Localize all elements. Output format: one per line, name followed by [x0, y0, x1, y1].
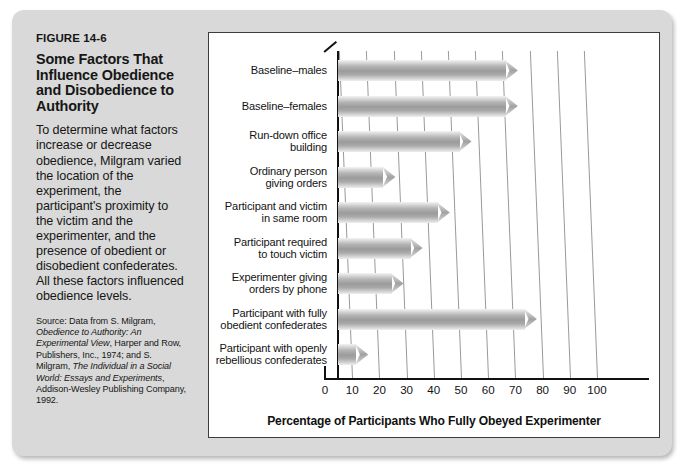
bar-body [338, 202, 438, 223]
figure-number: FIGURE 14-6 [36, 32, 188, 44]
bar-row [338, 309, 534, 330]
figure-source: Source: Data from S. Milgram, Obedience … [36, 316, 188, 407]
category-label: Baseline–males [209, 64, 333, 76]
figure-title: Some Factors That Influence Obedience an… [36, 52, 188, 114]
bar-body [338, 131, 460, 152]
gridline-90 [557, 51, 571, 378]
bar-row [338, 202, 447, 223]
bar-end-cap [459, 131, 472, 152]
figure-card: FIGURE 14-6 Some Factors That Influence … [12, 10, 672, 456]
bar-body [338, 344, 356, 365]
bar-row [338, 167, 392, 188]
bar-body [338, 60, 506, 81]
bar-row [338, 238, 420, 259]
bar-body [338, 238, 411, 259]
bar-row [338, 60, 515, 81]
category-label: Participant and victim in same room [209, 200, 333, 225]
x-axis-title: Percentage of Participants Who Fully Obe… [209, 414, 659, 428]
bar-end-cap [355, 344, 368, 365]
figure-caption-column: FIGURE 14-6 Some Factors That Influence … [36, 32, 188, 438]
bar-end-cap [410, 238, 423, 259]
bar-body [338, 309, 525, 330]
category-label: Run-down office building [209, 129, 333, 154]
bar-end-cap [505, 96, 518, 117]
bar-body [338, 167, 383, 188]
source-prefix: Source: Data from S. Milgram, [36, 316, 155, 326]
bar-row [338, 273, 401, 294]
bar-row [338, 344, 365, 365]
axis-depth-diagonal [323, 41, 336, 53]
bar-end-cap [524, 309, 537, 330]
bar-row [338, 131, 469, 152]
category-label: Experimenter giving orders by phone [209, 271, 333, 296]
category-label: Baseline–females [209, 100, 333, 112]
gridline-100 [584, 51, 598, 378]
bar-body [338, 96, 506, 117]
bar-row [338, 96, 515, 117]
bar-chart-plot: Percentage of Participants Who Fully Obe… [209, 33, 659, 437]
bar-end-cap [382, 167, 395, 188]
bar-body [338, 273, 392, 294]
bar-end-cap [391, 273, 404, 294]
chart-panel: Percentage of Participants Who Fully Obe… [208, 32, 660, 438]
category-label: Participant required to touch victim [209, 236, 333, 261]
x-axis-line [324, 378, 649, 380]
category-label: Ordinary person giving orders [209, 165, 333, 190]
bar-end-cap [437, 202, 450, 223]
category-label: Participant with openly rebellious confe… [209, 342, 333, 367]
x-tick-label-100: 100 [580, 383, 614, 396]
bar-end-cap [505, 60, 518, 81]
figure-description: To determine what factors increase or de… [36, 123, 188, 304]
category-label: Participant with fully obedient confeder… [209, 307, 333, 332]
